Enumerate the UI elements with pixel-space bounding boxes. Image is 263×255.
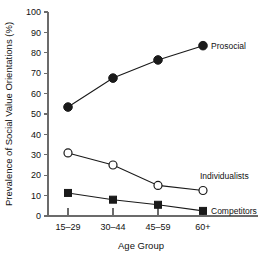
social-value-orientation-line-chart: 0102030405060708090100 15–2930–4445–5960… [0, 0, 263, 255]
x-axis-tick-label: 45–59 [145, 222, 170, 232]
y-axis-title: Prevalence of Social Value Orientations … [3, 22, 14, 206]
y-axis-tick-label: 80 [31, 48, 41, 58]
y-axis-tick-label: 40 [31, 130, 41, 140]
data-point-prosocial [199, 41, 208, 50]
series-label-competitors: Competitors [211, 206, 257, 216]
series-line-individualists [68, 153, 203, 191]
axis-titles-group: Age GroupPrevalence of Social Value Orie… [3, 22, 164, 251]
data-point-competitors [110, 196, 117, 203]
y-axis-tick-label: 70 [31, 68, 41, 78]
y-axis-tick-label: 60 [31, 89, 41, 99]
data-point-competitors [65, 189, 72, 196]
series-line-prosocial [68, 46, 203, 107]
data-point-competitors [155, 201, 162, 208]
data-point-prosocial [109, 74, 118, 83]
data-point-prosocial [154, 56, 163, 65]
y-axis-tick-label: 10 [31, 191, 41, 201]
series-line-competitors [68, 193, 203, 211]
y-axis-tick-label: 0 [36, 211, 41, 221]
x-axis-tick-label: 60+ [195, 222, 210, 232]
y-axis-tick-label: 20 [31, 170, 41, 180]
y-axis-tick-label: 90 [31, 28, 41, 38]
data-series-group: ProsocialIndividualistsCompetitors [64, 41, 257, 216]
x-axis-title: Age Group [118, 240, 164, 251]
series-label-individualists: Individualists [200, 171, 249, 181]
y-axis: 0102030405060708090100 [26, 7, 48, 221]
chart-container: 0102030405060708090100 15–2930–4445–5960… [0, 0, 263, 255]
data-point-competitors [200, 207, 207, 214]
x-axis-tick-label: 15–29 [55, 222, 80, 232]
data-point-individualists [109, 161, 117, 169]
series-label-prosocial: Prosocial [211, 41, 246, 51]
y-axis-tick-label: 30 [31, 150, 41, 160]
data-point-individualists [199, 187, 207, 195]
y-axis-tick-label: 50 [31, 109, 41, 119]
data-point-individualists [154, 181, 162, 189]
data-point-individualists [64, 149, 72, 157]
y-axis-tick-label: 100 [26, 7, 41, 17]
x-axis-tick-label: 30–44 [100, 222, 125, 232]
data-point-prosocial [64, 103, 73, 112]
